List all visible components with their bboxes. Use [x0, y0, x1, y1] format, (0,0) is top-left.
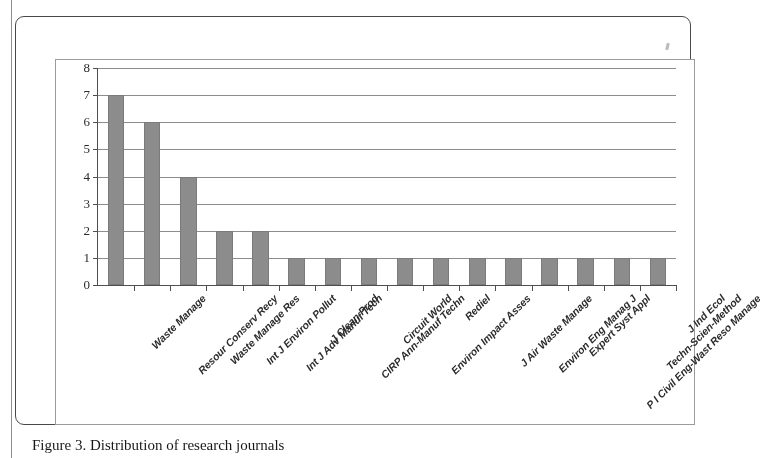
- y-tick-label-1: 1: [84, 250, 91, 266]
- bar: [180, 177, 197, 286]
- bar: [216, 231, 233, 285]
- bar: [650, 258, 667, 285]
- x-axis-category-labels: Waste ManageResour Conserv RecyWaste Man…: [98, 292, 698, 422]
- x-tick-6: [351, 285, 352, 291]
- x-tick-12: [568, 285, 569, 291]
- y-tick-label-4: 4: [84, 169, 91, 185]
- x-tick-15: [676, 285, 677, 291]
- scan-artifact-speck: [665, 43, 670, 51]
- bar: [577, 258, 594, 285]
- x-axis-label: Waste Manage: [149, 292, 208, 351]
- chart-plot-frame: 012345678 Waste ManageResour Conserv Rec…: [55, 59, 695, 425]
- x-axis-label: Techn-Scien-Method: [663, 292, 743, 372]
- y-tick-label-2: 2: [84, 223, 91, 239]
- bar: [469, 258, 486, 285]
- bar: [108, 95, 125, 285]
- x-tick-4: [279, 285, 280, 291]
- x-tick-0: [134, 285, 135, 291]
- x-tick-9: [459, 285, 460, 291]
- bar: [614, 258, 631, 285]
- bar: [288, 258, 305, 285]
- y-tick-label-0: 0: [84, 277, 91, 293]
- x-tick-13: [604, 285, 605, 291]
- y-tick-label-7: 7: [84, 87, 91, 103]
- y-tick-label-6: 6: [84, 114, 91, 130]
- bar: [433, 258, 450, 285]
- x-axis-label: Rediel: [462, 292, 492, 322]
- x-tick-3: [243, 285, 244, 291]
- bar: [325, 258, 342, 285]
- bar: [397, 258, 414, 285]
- bar-series: [98, 68, 676, 285]
- x-axis-label: Environ Eng Manag J: [556, 292, 639, 375]
- bar: [252, 231, 269, 285]
- figure-border-box: 012345678 Waste ManageResour Conserv Rec…: [15, 16, 691, 425]
- plot-area: 012345678: [98, 68, 676, 285]
- x-tick-2: [206, 285, 207, 291]
- x-tick-1: [170, 285, 171, 291]
- y-tick-label-8: 8: [84, 60, 91, 76]
- x-tick-7: [387, 285, 388, 291]
- y-tick-label-5: 5: [84, 141, 91, 157]
- x-tick-8: [423, 285, 424, 291]
- figure-caption: Figure 3. Distribution of research journ…: [32, 437, 672, 458]
- y-tick-label-3: 3: [84, 196, 91, 212]
- x-tick-5: [315, 285, 316, 291]
- page-margin-rule: [11, 0, 12, 458]
- bar: [144, 122, 161, 285]
- bar: [505, 258, 522, 285]
- x-tick-10: [495, 285, 496, 291]
- bar: [361, 258, 378, 285]
- x-tick-11: [532, 285, 533, 291]
- x-tick-14: [640, 285, 641, 291]
- bar: [541, 258, 558, 285]
